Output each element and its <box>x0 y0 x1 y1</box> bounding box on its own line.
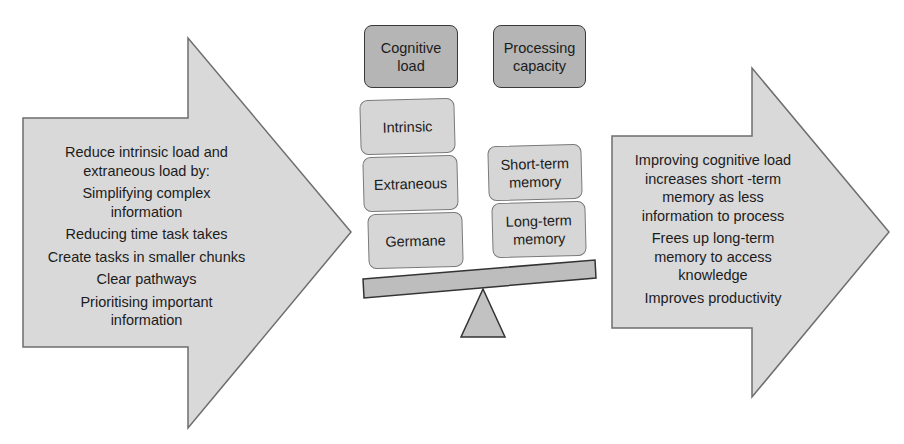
short-term-memory-label: Short-term memory <box>489 153 582 191</box>
intrinsic-box: Intrinsic <box>359 98 455 155</box>
short-term-memory-box: Short-term memory <box>487 144 582 201</box>
right-arrow-item: Improves productivity <box>628 289 798 308</box>
right-arrow-text: Improving cognitive load increases short… <box>628 151 798 311</box>
long-term-memory-label: Long-term memory <box>493 210 586 248</box>
intrinsic-label: Intrinsic <box>382 117 432 136</box>
cognitive-load-label: Cognitive load <box>365 39 457 75</box>
left-arrow-heading: Reduce intrinsic load and extraneous loa… <box>30 143 263 180</box>
left-arrow-item: Clear pathways <box>30 270 263 289</box>
cognitive-load-header: Cognitive load <box>364 25 458 88</box>
left-arrow-item: Prioritising important information <box>30 293 263 330</box>
left-arrow-item: Reducing time task takes <box>30 225 263 244</box>
left-arrow-item: Simplifying complex information <box>30 184 263 221</box>
right-arrow-item: Frees up long-term memory to access know… <box>628 229 798 285</box>
processing-capacity-label: Processing capacity <box>494 39 585 75</box>
germane-box: Germane <box>367 212 463 269</box>
right-arrow-item: Improving cognitive load increases short… <box>628 151 798 225</box>
extraneous-box: Extraneous <box>362 155 458 212</box>
left-arrow-text: Reduce intrinsic load and extraneous loa… <box>30 143 263 334</box>
long-term-memory-box: Long-term memory <box>491 201 586 258</box>
left-arrow-item: Create tasks in smaller chunks <box>30 248 263 267</box>
processing-capacity-header: Processing capacity <box>493 25 586 88</box>
extraneous-label: Extraneous <box>374 174 448 194</box>
seesaw-fulcrum <box>461 289 505 337</box>
germane-label: Germane <box>385 231 446 251</box>
